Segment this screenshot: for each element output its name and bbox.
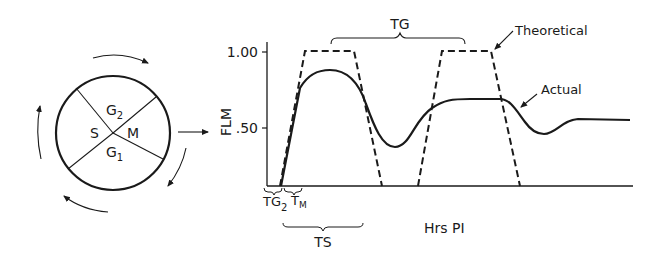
tg-bracket bbox=[331, 33, 465, 44]
theoretical-curve bbox=[280, 51, 382, 186]
y-axis-label: FLM bbox=[218, 108, 234, 136]
phase-g1-label: G1 bbox=[106, 144, 123, 163]
rotation-arrow-icon bbox=[64, 196, 108, 212]
y-tick-label-100: 1.00 bbox=[227, 44, 258, 60]
tg2-label: TG2 bbox=[262, 194, 287, 213]
x-axis-label: Hrs PI bbox=[424, 220, 465, 236]
phase-g2-label: G2 bbox=[106, 102, 123, 121]
rotation-arrow-icon bbox=[168, 148, 186, 186]
ts-bracket bbox=[283, 223, 363, 231]
ts-label: TS bbox=[313, 234, 332, 250]
tm-label: TM bbox=[290, 193, 307, 210]
cell-cycle-figure: G2 S M G1 1.00 .50 FLM TG Theoretical bbox=[0, 0, 663, 257]
theoretical-pointer-icon bbox=[495, 31, 513, 49]
phase-m-label: M bbox=[127, 125, 139, 141]
phase-s-label: S bbox=[90, 125, 99, 141]
theoretical-curve bbox=[418, 51, 520, 186]
y-tick-label-50: .50 bbox=[236, 120, 258, 136]
actual-pointer-icon bbox=[521, 94, 537, 107]
flm-chart: 1.00 .50 FLM TG Theoretical Actual TG2 T… bbox=[218, 16, 633, 250]
theoretical-label: Theoretical bbox=[514, 23, 588, 38]
cell-cycle-circle: G2 S M G1 bbox=[38, 55, 208, 212]
rotation-arrow-icon bbox=[38, 106, 41, 159]
rotation-arrow-icon bbox=[93, 55, 148, 63]
actual-label: Actual bbox=[541, 82, 582, 97]
tg-label: TG bbox=[389, 16, 409, 32]
